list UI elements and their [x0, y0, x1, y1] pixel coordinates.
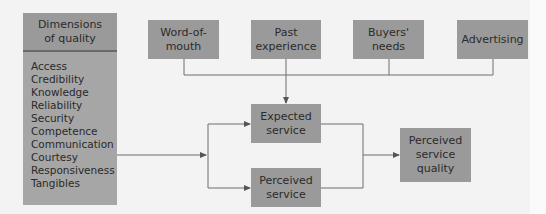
- dimension-item: Security: [31, 112, 115, 125]
- dimension-item: Responsiveness: [31, 164, 115, 177]
- dimension-item: Credibility: [31, 73, 115, 86]
- expected-service-box: Expected service: [251, 104, 321, 143]
- dimensions-list: Access Credibility Knowledge Reliability…: [31, 60, 115, 190]
- past-experience-box: Past experience: [251, 20, 321, 59]
- dimension-item: Reliability: [31, 99, 115, 112]
- buyers-needs-box: Buyers' needs: [353, 20, 424, 59]
- dimension-item: Knowledge: [31, 86, 115, 99]
- perceived-service-box: Perceived service: [251, 168, 321, 207]
- dimension-item: Competence: [31, 125, 115, 138]
- advertising-box: Advertising: [457, 20, 528, 59]
- dimensions-of-quality-box: Dimensions of quality Access Credibility…: [23, 13, 117, 205]
- perceived-service-quality-box: Perceived service quality: [400, 128, 471, 182]
- word-of-mouth-box: Word-of- mouth: [148, 20, 219, 59]
- dimension-item: Access: [31, 60, 115, 73]
- dimension-item: Tangibles: [31, 177, 115, 190]
- dimensions-title: Dimensions of quality: [23, 13, 117, 52]
- dimension-item: Communication: [31, 138, 115, 151]
- dimension-item: Courtesy: [31, 151, 115, 164]
